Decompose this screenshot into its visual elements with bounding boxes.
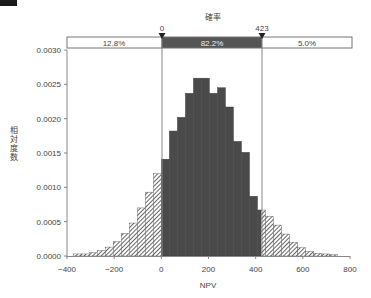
x-tick-label: −400 xyxy=(58,265,77,274)
histogram-bar xyxy=(193,78,201,256)
y-tick-label: 0.0015 xyxy=(37,149,62,158)
histogram-bar xyxy=(153,174,161,256)
y-tick-label: 0.0010 xyxy=(37,183,62,192)
histogram-bar xyxy=(129,223,137,256)
histogram-bar xyxy=(185,93,193,256)
histogram-bar xyxy=(250,196,258,256)
histogram-chart: 確率 0 423 12.8% 82.2% 5.0% 0.00000.00050.… xyxy=(0,0,371,298)
histogram-bar xyxy=(73,254,81,256)
histogram-bar xyxy=(97,251,105,256)
histogram-bar xyxy=(89,253,97,256)
histogram-bar xyxy=(225,107,233,256)
histogram-bar xyxy=(330,255,338,256)
x-axis-label: NPV xyxy=(200,281,217,290)
histogram-bar xyxy=(177,117,185,256)
histogram-bar xyxy=(306,251,314,256)
histogram-bar xyxy=(105,247,113,256)
histogram-bars xyxy=(73,78,338,256)
x-tick-label: 0 xyxy=(159,265,164,274)
left-probability: 12.8% xyxy=(103,39,126,48)
histogram-bar xyxy=(137,208,145,256)
x-tick-label: 600 xyxy=(296,265,310,274)
histogram-bar xyxy=(258,210,262,256)
histogram-bar xyxy=(145,192,153,256)
histogram-bar xyxy=(274,225,282,256)
middle-probability: 82.2% xyxy=(201,39,224,48)
right-probability: 5.0% xyxy=(298,39,316,48)
x-tick-label: −200 xyxy=(105,265,124,274)
y-tick-label: 0.0030 xyxy=(37,46,62,55)
x-tick-label: 400 xyxy=(249,265,263,274)
x-tick-label: 200 xyxy=(202,265,216,274)
histogram-bar xyxy=(201,78,209,256)
histogram-bar xyxy=(161,159,169,256)
histogram-bar xyxy=(217,88,225,256)
histogram-bar xyxy=(290,242,298,256)
histogram-bar xyxy=(266,216,274,256)
histogram-bar xyxy=(81,254,89,256)
histogram-bar xyxy=(113,242,121,256)
histogram-bar xyxy=(209,93,217,256)
histogram-bar xyxy=(169,131,177,256)
histogram-bar xyxy=(322,254,330,256)
probability-title: 確率 xyxy=(205,12,221,22)
y-tick-label: 0.0000 xyxy=(37,252,62,261)
x-tick-label: 800 xyxy=(343,265,357,274)
histogram-bar xyxy=(314,253,322,256)
y-tick-label: 0.0020 xyxy=(37,115,62,124)
y-axis-label: 相対度数 xyxy=(9,126,19,162)
x-axis-ticks: −400−2000200400600800 xyxy=(58,256,357,274)
histogram-bar xyxy=(298,248,306,256)
y-tick-label: 0.0005 xyxy=(37,218,62,227)
histogram-bar xyxy=(242,152,250,256)
y-axis-ticks: 0.00000.00050.00100.00150.00200.00250.00… xyxy=(37,46,67,261)
histogram-bar xyxy=(233,141,241,256)
histogram-bar xyxy=(121,233,129,256)
histogram-bar xyxy=(282,234,290,256)
probability-bar: 12.8% 82.2% 5.0% xyxy=(67,37,352,48)
y-tick-label: 0.0025 xyxy=(37,80,62,89)
right-marker-value: 423 xyxy=(255,24,269,33)
left-marker-value: 0 xyxy=(160,24,165,33)
